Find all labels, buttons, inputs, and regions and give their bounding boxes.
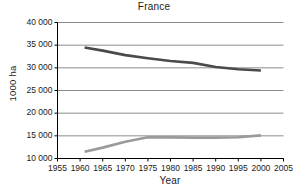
series-line-lower-series (85, 135, 261, 151)
chart-container: France 1000 ha Year 10 00015 00020 00025… (0, 0, 308, 195)
y-tick-label: 15 000 (17, 130, 53, 140)
y-tick-label: 10 000 (17, 153, 53, 163)
y-tick-label: 30 000 (17, 62, 53, 72)
y-tick-label: 25 000 (17, 85, 53, 95)
axis-ticks (55, 23, 284, 162)
y-tick-label: 40 000 (17, 17, 53, 27)
y-tick-label: 20 000 (17, 107, 53, 117)
y-tick-label: 35 000 (17, 39, 53, 49)
x-tick-label: 2005 (271, 163, 297, 173)
series-line-upper-series (85, 47, 261, 70)
